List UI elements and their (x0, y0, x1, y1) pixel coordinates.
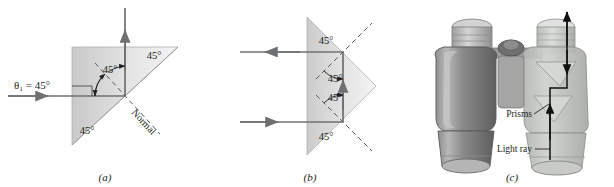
prism-shape-b (307, 17, 376, 155)
panel-a: θ₁ = 45° 45° 45° 45° Normal (a) (0, 0, 210, 187)
incident-angle-label-a: θ₁ = 45° (14, 79, 50, 91)
prism-angle-label-a-top: 45° (147, 50, 162, 61)
panel-c: Prisms Light ray (c) (410, 0, 614, 187)
caption-b: (b) (210, 171, 410, 183)
light-ray-label: Light ray (497, 144, 532, 154)
panel-b: 45° 45° 45° 45° (b) (210, 0, 410, 187)
prism-angle-label-a-bottom: 45° (80, 125, 95, 136)
prism-angle-label-b-top: 45° (319, 35, 334, 46)
caption-a: (a) (0, 171, 210, 183)
prisms-label: Prisms (506, 109, 532, 119)
focus-wheel-top (503, 40, 519, 50)
reflection-angle-label-upper-b: 45° (328, 73, 343, 84)
prism-angle-label-b-bottom: 45° (319, 131, 334, 142)
binocular-hinge-post (498, 56, 524, 108)
caption-c: (c) (410, 171, 614, 183)
reflection-angle-label-a: 45° (103, 64, 118, 75)
figure-total-internal-reflection: θ₁ = 45° 45° 45° 45° Normal (a) (0, 0, 614, 187)
reflection-angle-label-lower-b: 45° (328, 92, 343, 103)
normal-label-a: Normal (130, 107, 159, 137)
